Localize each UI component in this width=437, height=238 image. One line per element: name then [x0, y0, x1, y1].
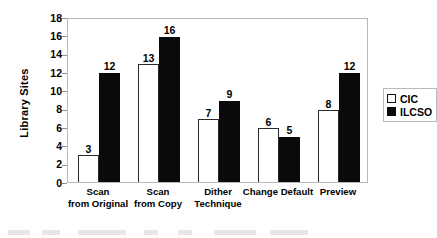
x-axis-label-preview: Preview: [298, 186, 378, 198]
bar-group: 3 12: [68, 19, 128, 182]
legend: CIC ILCSO: [383, 88, 437, 122]
bar-ilcso[interactable]: 9: [219, 101, 240, 183]
bar-cic[interactable]: 3: [78, 155, 99, 182]
y-tick-label: 10: [50, 85, 62, 97]
bar-group: 7 9: [188, 19, 248, 182]
y-tick-label: 16: [50, 30, 62, 42]
bar-cic[interactable]: 7: [198, 119, 219, 182]
legend-item-cic[interactable]: CIC: [387, 92, 432, 105]
bar-value-label: 16: [164, 25, 176, 36]
bar-value-label: 5: [287, 125, 293, 136]
y-tick-label: 18: [50, 12, 62, 24]
y-tick-label: 12: [50, 67, 62, 79]
bar-ilcso[interactable]: 12: [99, 73, 120, 182]
y-tick-label: 14: [50, 48, 62, 60]
bar-cic[interactable]: 8: [318, 110, 339, 182]
plot-area: 3 12 13 16 7 9: [67, 18, 368, 183]
legend-swatch-ilcso-icon: [387, 107, 396, 116]
bar-value-label: 9: [227, 89, 233, 100]
bar-group: 13 16: [128, 19, 188, 182]
legend-label-cic: CIC: [400, 93, 418, 105]
bar-value-label: 8: [326, 99, 332, 110]
bar-value-label: 7: [206, 108, 212, 119]
plot-inner: 3 12 13 16 7 9: [68, 19, 367, 182]
bar-ilcso[interactable]: 12: [339, 73, 360, 182]
bar-ilcso[interactable]: 16: [159, 37, 180, 182]
bar-cic[interactable]: 13: [138, 64, 159, 182]
bar-value-label: 12: [104, 61, 116, 72]
bar-group: 6 5: [248, 19, 308, 182]
bar-group: 8 12: [308, 19, 368, 182]
bar-ilcso[interactable]: 5: [279, 137, 300, 182]
bar-value-label: 3: [86, 144, 92, 155]
x-axis-label-group: Scan from Original Scan from Copy Dither…: [67, 186, 368, 226]
bar-value-label: 6: [266, 117, 272, 128]
bar-value-label: 12: [344, 61, 356, 72]
legend-item-ilcso[interactable]: ILCSO: [387, 105, 432, 118]
legend-label-ilcso: ILCSO: [400, 106, 432, 118]
bar-cic[interactable]: 6: [258, 128, 279, 182]
y-tick-mark: [62, 183, 67, 184]
bar-value-label: 13: [143, 53, 155, 64]
legend-swatch-cic-icon: [387, 94, 396, 103]
page-scan-artifact: [8, 230, 308, 235]
